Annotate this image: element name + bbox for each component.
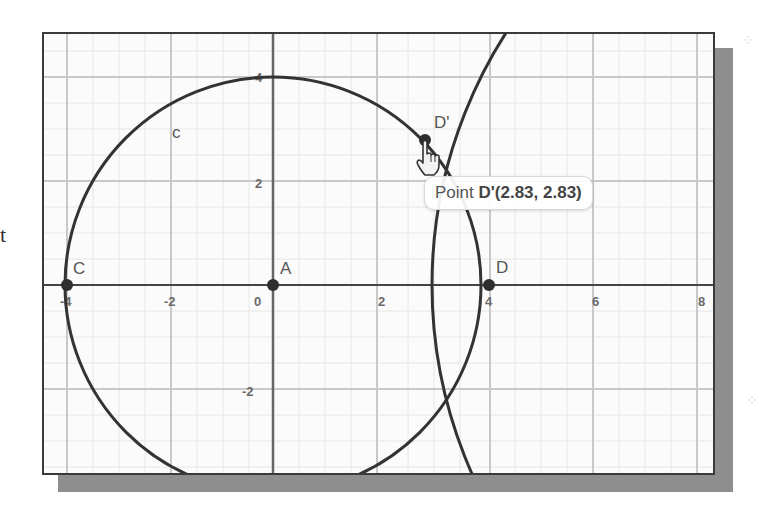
point-label-d-prime: D' [434, 113, 450, 132]
point-c[interactable] [61, 279, 73, 291]
x-tick-label: 6 [592, 294, 599, 309]
cropped-side-text: t [0, 222, 6, 248]
x-tick-label: 8 [698, 294, 705, 309]
point-label-d: D [496, 258, 508, 277]
point-label-a: A [280, 259, 292, 278]
scan-artifact: ⁘ [746, 392, 758, 408]
scan-artifact: ⁘ [742, 32, 754, 48]
circle-second[interactable] [432, 34, 715, 475]
minor-grid [44, 34, 715, 475]
x-tick-label: 2 [378, 294, 385, 309]
y-tick-label: -2 [242, 384, 254, 399]
hand-pointer-icon [414, 138, 444, 178]
point-label-c: C [73, 259, 85, 278]
graphics-view[interactable]: -4 -2 0 2 4 6 8 4 2 -2 c C A D D' [42, 32, 715, 475]
x-tick-label: 4 [485, 294, 493, 309]
circle-label-c: c [172, 123, 181, 142]
x-tick-label: -2 [164, 294, 176, 309]
point-a[interactable] [267, 279, 279, 291]
x-tick-label: 0 [254, 294, 261, 309]
point-tooltip: Point D'(2.83, 2.83) [424, 176, 593, 210]
point-d[interactable] [483, 279, 495, 291]
tooltip-prefix: Point [435, 183, 478, 202]
y-tick-label: 2 [255, 176, 262, 191]
tooltip-point-value: D'(2.83, 2.83) [478, 183, 581, 202]
plot-canvas[interactable]: -4 -2 0 2 4 6 8 4 2 -2 c C A D D' [44, 34, 715, 475]
